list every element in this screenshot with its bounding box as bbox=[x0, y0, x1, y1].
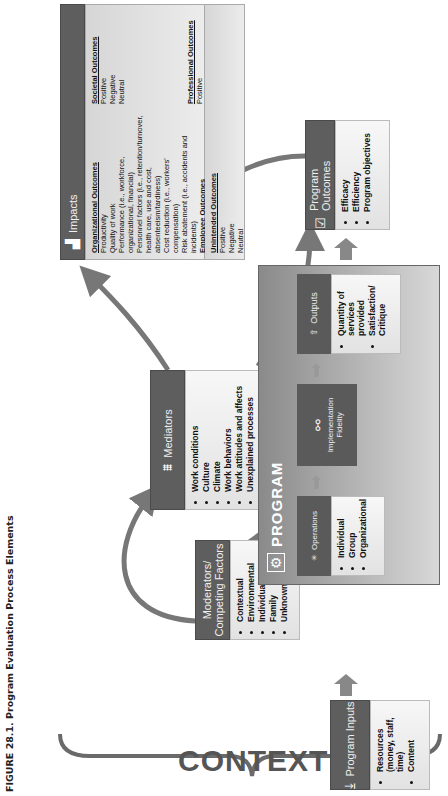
network-icon: ⚯ bbox=[310, 419, 326, 431]
list-item: Individual bbox=[336, 503, 346, 558]
list-item: Climate bbox=[212, 377, 222, 492]
moderators-title: Moderators/ Competing Factors bbox=[201, 541, 225, 639]
program-inputs-header: ⤓ Program Inputs bbox=[330, 700, 370, 790]
impact-line: Positive bbox=[99, 11, 108, 104]
list-item: Environmental bbox=[246, 547, 256, 622]
impact-line: Neutral bbox=[117, 11, 126, 104]
sparkle-icon: ✳ bbox=[310, 554, 319, 561]
implementation-fidelity-box: ⚯ Implementation Fidelity bbox=[297, 384, 357, 466]
impact-line: organizational, financial) bbox=[126, 104, 135, 253]
impact-line: Negative bbox=[108, 11, 117, 104]
program-title-row: ⚙ PROGRAM bbox=[267, 462, 285, 572]
outputs-title: Outputs bbox=[309, 292, 319, 324]
clipboard-check-icon: ☑ bbox=[313, 217, 328, 229]
outputs-list: Quantity of services provided Satisfacti… bbox=[331, 274, 401, 354]
list-item: Content bbox=[406, 707, 416, 772]
moderators-header: Moderators/ Competing Factors bbox=[195, 540, 230, 640]
impact-line: Neutral bbox=[236, 11, 245, 253]
impact-line: Performance (i.e., workforce, bbox=[117, 104, 126, 253]
unintended-heading: Unintended Outcomes bbox=[209, 173, 218, 253]
organizational-heading: Organizational Outcomes bbox=[90, 162, 99, 253]
operations-header: ✳ Operations bbox=[297, 496, 331, 576]
program-outcomes-header: ☑ Program Outcomes bbox=[305, 120, 335, 230]
outputs-header: ⇧ Outputs bbox=[297, 274, 331, 354]
impacts-unintended: Unintended Outcomes Positive Negative Ne… bbox=[205, 4, 245, 260]
list-item: Work behaviors bbox=[223, 377, 233, 492]
professional-heading: Professional Outcomes bbox=[186, 20, 195, 104]
list-item: Group bbox=[347, 503, 357, 558]
list-item: Efficacy bbox=[340, 127, 350, 212]
program-inputs-title: Program Inputs bbox=[344, 701, 356, 776]
impact-line: Personnel factors (i.e., retention/turno… bbox=[135, 104, 144, 253]
impact-line: Positive bbox=[218, 11, 227, 253]
mediators-title: Mediators bbox=[162, 409, 174, 457]
list-item: Program objectives bbox=[362, 127, 372, 212]
impacts-right-column: Societal Outcomes Positive Negative Neut… bbox=[90, 11, 200, 104]
diagram-canvas: FIGURE 28.1. Program Evaluation Process … bbox=[0, 0, 448, 796]
mediators-list: Work conditions Culture Climate Work beh… bbox=[185, 370, 265, 510]
list-item: Contextual bbox=[235, 547, 245, 622]
list-item: Work attitudes and affects bbox=[234, 377, 244, 492]
impact-line: Risk abatement (i.e., accidents and inci… bbox=[180, 104, 198, 253]
program-icon: ⚙ bbox=[267, 553, 285, 572]
mediators-header: ⩩ Mediators bbox=[150, 370, 185, 510]
impact-line: Negative bbox=[227, 11, 236, 253]
list-item: Efficiency bbox=[351, 127, 361, 212]
impacts-content: Organizational Outcomes Productivity Qua… bbox=[85, 4, 205, 260]
impact-line: Cost reduction (i.e., workers' bbox=[162, 104, 171, 253]
impacts-title: Impacts bbox=[67, 194, 79, 233]
societal-heading: Societal Outcomes bbox=[90, 37, 99, 105]
impact-line: Productivity bbox=[99, 104, 108, 253]
arrow-down-tray-icon: ⤓ bbox=[342, 783, 358, 789]
list-item: Culture bbox=[201, 377, 211, 492]
program-outcomes-title: Program Outcomes bbox=[308, 121, 332, 211]
program-title: PROGRAM bbox=[268, 462, 285, 547]
program-box: ⚙ PROGRAM ✳ Operations Individual Group … bbox=[258, 265, 440, 585]
impact-line: Quality of work bbox=[108, 104, 117, 253]
impact-line: Positive bbox=[195, 11, 204, 104]
list-item: Organizational bbox=[358, 503, 368, 558]
operations-title: Operations bbox=[310, 511, 319, 550]
impact-line: absenteeism/tardiness) bbox=[153, 104, 162, 253]
list-item: Quantity of services provided bbox=[336, 281, 366, 336]
upload-icon: ⇧ bbox=[309, 328, 319, 336]
list-item: Satisfaction/ Critique bbox=[367, 281, 387, 336]
program-inputs-list: Resources (money, staff, time) Content bbox=[370, 700, 430, 790]
fidelity-title: Implementation Fidelity bbox=[326, 384, 344, 466]
operations-list: Individual Group Organizational bbox=[331, 496, 385, 576]
list-item: Unexplained processes bbox=[245, 377, 255, 492]
list-item: Resources (money, staff, time) bbox=[375, 707, 405, 772]
impact-line: compensation) bbox=[171, 104, 180, 253]
list-item: Work conditions bbox=[190, 377, 200, 492]
program-outcomes-list: Efficacy Efficiency Program objectives bbox=[335, 120, 390, 230]
arrow-right-icon: ➡ bbox=[305, 363, 327, 378]
impacts-header: ▟ Impacts bbox=[60, 4, 85, 260]
context-label: CONTEXT bbox=[178, 744, 328, 778]
bridge-icon: ⩩ bbox=[160, 464, 176, 471]
arrow-right-icon: ➡ bbox=[305, 475, 327, 490]
impacts-left-column: Organizational Outcomes Productivity Qua… bbox=[90, 104, 200, 253]
bar-chart-icon: ▟ bbox=[65, 239, 80, 249]
impact-line: health care, use and cost, bbox=[144, 104, 153, 253]
